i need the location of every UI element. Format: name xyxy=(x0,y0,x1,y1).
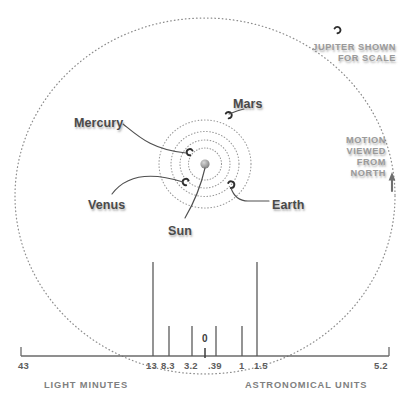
orbit-jupiter xyxy=(15,18,395,374)
scale-label-left-endpoint: 43 xyxy=(18,360,29,371)
leader-earth xyxy=(231,188,269,201)
leader-sun xyxy=(185,168,205,218)
leader-mars xyxy=(229,109,244,114)
sun-body xyxy=(200,159,209,168)
scale-label-3-2: 3.2 xyxy=(184,360,198,371)
diagram-canvas: JUPITER SHOWN FOR SCALE MOTION VIEWED FR… xyxy=(0,0,414,411)
scale-label-1-5: 1.5 xyxy=(254,360,268,371)
leader-mercury xyxy=(123,124,186,153)
scale-label-right-endpoint: 5.2 xyxy=(374,360,388,371)
axis-caption-astronomical-units: ASTRONOMICAL UNITS xyxy=(245,380,367,390)
diagram-graphics xyxy=(0,0,414,411)
axis-caption-light-minutes: LIGHT MINUTES xyxy=(44,380,128,390)
scale-label-13: 13 xyxy=(146,360,157,371)
scale-label-1: 1 xyxy=(239,360,244,371)
marker-jupiter xyxy=(335,27,341,33)
leader-lines xyxy=(112,109,269,218)
scale-label-8-3: 8.3 xyxy=(161,360,175,371)
scale-label-0-39: .39 xyxy=(208,360,222,371)
marker-mercury xyxy=(187,149,193,155)
leader-venus xyxy=(112,176,183,194)
scale-zero-label: 0 xyxy=(202,333,208,344)
